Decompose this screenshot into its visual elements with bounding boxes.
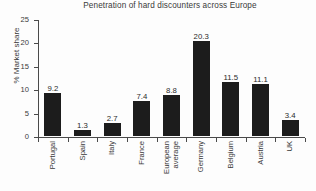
x-tick (38, 138, 39, 142)
bar (44, 93, 61, 136)
x-category-label-line: Austria (255, 141, 264, 165)
x-tick (246, 138, 247, 142)
x-category-label-line: average (172, 141, 181, 174)
y-tick: 10 (34, 90, 38, 91)
bar-value-label: 9.2 (39, 84, 67, 93)
y-tick: 20 (34, 43, 38, 44)
bar-value-label: 11.5 (217, 73, 245, 82)
x-tick (216, 138, 217, 142)
x-category-label-line: Germany (196, 141, 205, 172)
y-tick: 25 (34, 20, 38, 21)
bar (282, 120, 299, 136)
plot-area: 0510152025 9.21.32.77.48.820.311.511.13.… (38, 20, 305, 137)
y-axis-line (38, 20, 39, 138)
x-tick (68, 138, 69, 142)
bar (252, 84, 269, 136)
x-axis-line (38, 137, 305, 138)
bar-value-label: 11.1 (247, 75, 275, 84)
y-tick: 15 (34, 67, 38, 68)
x-tick (157, 138, 158, 142)
bar-value-label: 8.8 (158, 86, 186, 95)
bar-value-label: 20.3 (187, 32, 215, 41)
chart-title: Penetration of hard discounters across E… (36, 1, 304, 10)
y-tick: 5 (34, 114, 38, 115)
bar-value-label: 3.4 (276, 111, 304, 120)
x-tick (97, 138, 98, 142)
x-category-label-line: European (162, 141, 171, 174)
x-tick (186, 138, 187, 142)
y-axis-title: % Market share (12, 8, 21, 104)
bar (222, 82, 239, 136)
y-tick-label: 5 (25, 109, 29, 118)
y-tick-label: 20 (21, 38, 29, 47)
bar (133, 101, 150, 136)
x-category-label-line: Spain (77, 141, 86, 160)
bar-chart: Penetration of hard discounters across E… (0, 0, 316, 191)
x-tick (127, 138, 128, 142)
y-tick-label: 10 (21, 85, 29, 94)
x-tick (305, 138, 306, 142)
bar-value-label: 2.7 (98, 114, 126, 123)
x-tick (275, 138, 276, 142)
x-category-label-line: Belgium (226, 141, 235, 168)
x-category-label-line: France (137, 141, 146, 165)
bar (163, 95, 180, 136)
y-tick-label: 0 (25, 132, 29, 141)
y-tick-label: 25 (21, 15, 29, 24)
x-category-label-line: Italy (107, 141, 116, 155)
x-category-label-line: Portugal (48, 141, 57, 169)
bar-value-label: 7.4 (128, 92, 156, 101)
bar (104, 123, 121, 136)
bar (74, 130, 91, 136)
x-category-label-line: UK (285, 141, 294, 152)
y-tick-label: 15 (21, 62, 29, 71)
bar (193, 41, 210, 136)
bar-value-label: 1.3 (69, 121, 97, 130)
